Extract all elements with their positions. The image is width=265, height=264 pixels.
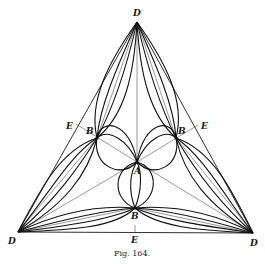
point-a bbox=[135, 160, 138, 163]
label-e-right: E bbox=[200, 121, 208, 131]
curves-top bbox=[95, 22, 179, 138]
label-a-center: A bbox=[133, 166, 141, 176]
label-b-bottom: B bbox=[130, 211, 139, 221]
outer-triangle bbox=[18, 22, 253, 233]
label-e-left: E bbox=[65, 121, 73, 131]
label-d-right: D bbox=[249, 238, 258, 248]
construction-lines bbox=[18, 22, 253, 233]
label-b-right: B bbox=[177, 126, 186, 136]
label-d-top: D bbox=[132, 8, 141, 18]
point-b-right bbox=[174, 136, 177, 139]
point-b-left bbox=[95, 136, 98, 139]
label-e-bottom: E bbox=[130, 235, 138, 245]
figure-164-diagram: D D D E E E B B B A Fig. 164. bbox=[0, 0, 265, 264]
label-d-left: D bbox=[7, 236, 16, 246]
point-b-bottom bbox=[133, 206, 136, 209]
figure-caption: Fig. 164. bbox=[114, 249, 150, 258]
label-b-left: B bbox=[85, 126, 94, 136]
